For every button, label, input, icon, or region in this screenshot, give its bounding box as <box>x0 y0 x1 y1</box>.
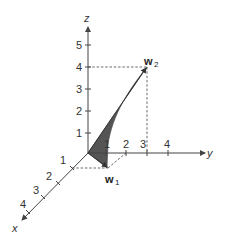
x-tick-label: 3 <box>33 184 39 196</box>
vector-diagram: z y x 1 2 3 4 5 1 2 3 4 1 2 3 4 w 2 w 1 <box>0 0 225 242</box>
x-tick-label: 4 <box>20 198 26 210</box>
w2-label: w 2 <box>143 55 159 69</box>
z-tick-label: 1 <box>76 127 82 139</box>
w1-label: w 1 <box>104 173 120 187</box>
z-axis-label: z <box>83 12 90 24</box>
x-tick-label: 2 <box>46 170 52 182</box>
x-tick-label: 1 <box>60 154 66 166</box>
y-tick-label: 4 <box>164 138 170 150</box>
y-tick-label: 3 <box>140 138 146 150</box>
svg-text:w: w <box>143 55 153 67</box>
svg-text:2: 2 <box>154 60 159 69</box>
vector-w2 <box>88 68 146 153</box>
svg-text:w: w <box>104 173 114 185</box>
x-axis-label: x <box>11 222 18 234</box>
y-axis-label: y <box>206 147 214 159</box>
x-axis <box>22 153 88 220</box>
svg-text:1: 1 <box>115 178 120 187</box>
z-tick-label: 2 <box>76 105 82 117</box>
z-tick-label: 3 <box>76 83 82 95</box>
z-tick-label: 5 <box>76 39 82 51</box>
y-tick-label: 2 <box>123 138 129 150</box>
y-tick-label: 1 <box>104 138 110 150</box>
z-tick-label: 4 <box>76 61 82 73</box>
